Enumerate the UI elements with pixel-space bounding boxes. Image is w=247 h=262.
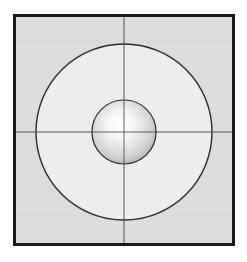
target-diagram	[0, 0, 247, 262]
figure-container	[0, 0, 247, 262]
